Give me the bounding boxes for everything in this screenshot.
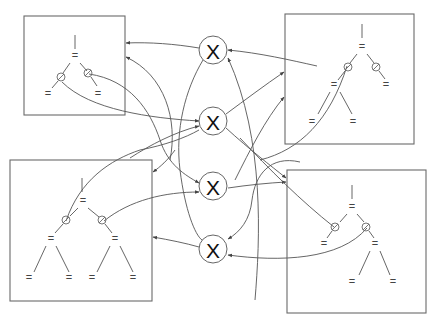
- edge-arc-to-x1: [228, 58, 258, 300]
- operator-node-x3: X: [199, 172, 227, 200]
- svg-text:=: =: [95, 87, 101, 99]
- operator-node-x2: X: [199, 107, 227, 135]
- tree-top-left: = = =: [45, 35, 101, 99]
- svg-text:=: =: [349, 200, 355, 212]
- leaf-eq: =: [72, 49, 78, 61]
- svg-text:=: =: [45, 87, 51, 99]
- diagram-canvas: = = = = = = = = =: [0, 0, 439, 321]
- svg-text:X: X: [206, 239, 220, 262]
- edge-tr-port1-to-x1: [228, 50, 317, 66]
- edge-x3-to-box-tr-2: [235, 97, 284, 180]
- box-bottom-right: [287, 170, 426, 313]
- tree-top-right: = = = = =: [309, 24, 389, 127]
- svg-text:X: X: [206, 111, 220, 134]
- svg-text:=: =: [390, 275, 396, 287]
- svg-text:=: =: [331, 78, 337, 90]
- edge-arc-to-box-tl: [126, 57, 172, 160]
- tree-bottom-left: = = = = = = =: [26, 178, 136, 283]
- svg-text:=: =: [80, 194, 86, 206]
- operator-node-x4: X: [199, 235, 227, 263]
- svg-text:=: =: [349, 275, 355, 287]
- svg-text:=: =: [383, 78, 389, 90]
- edge-x4-to-box-bl: [153, 237, 199, 247]
- svg-text:=: =: [26, 271, 32, 283]
- edge-to-box-bl-1: [153, 150, 175, 172]
- svg-text:X: X: [206, 176, 220, 199]
- svg-text:=: =: [112, 232, 118, 244]
- svg-text:=: =: [350, 115, 356, 127]
- svg-text:=: =: [89, 271, 95, 283]
- svg-text:=: =: [359, 40, 365, 52]
- edge-x1-to-box-tl: [126, 43, 199, 48]
- svg-text:=: =: [48, 232, 54, 244]
- box-top-left: [24, 16, 125, 115]
- svg-text:=: =: [372, 237, 378, 249]
- edge-bl-to-x2: [130, 126, 199, 158]
- svg-text:=: =: [66, 271, 72, 283]
- svg-text:=: =: [321, 237, 327, 249]
- edge-br-port2-to-x4: [228, 228, 367, 258]
- svg-text:X: X: [206, 40, 220, 63]
- svg-text:=: =: [309, 115, 315, 127]
- svg-text:=: =: [130, 271, 136, 283]
- edge-x1-to-x4-loop: [179, 60, 203, 240]
- operator-node-x1: X: [199, 36, 227, 64]
